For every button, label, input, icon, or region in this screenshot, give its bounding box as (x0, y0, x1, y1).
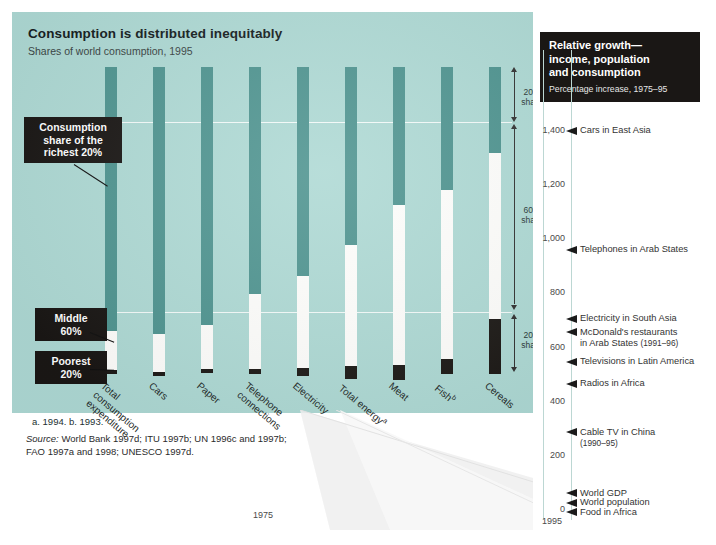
axis-year-end: 1995 (542, 516, 562, 526)
bar-segment-middle-3 (201, 325, 213, 370)
axis-line-right (571, 50, 572, 520)
bar-segment-poorest-8 (441, 359, 453, 374)
marker-arrow-7 (566, 428, 577, 436)
bar-2 (153, 67, 165, 374)
source-note: Source: World Bank 1997d; ITU 1997b; UN … (26, 433, 287, 458)
bar-segment-poorest-5 (297, 368, 309, 376)
bar-4 (249, 67, 261, 374)
footnotes: a. 1994. b. 1993. (32, 416, 103, 427)
bar-segment-middle-2 (153, 334, 165, 372)
growth-header: Relative growth— income, population and … (540, 32, 700, 102)
bar-label-9: Cereals (483, 380, 517, 411)
growth-title-line1: Relative growth— (549, 39, 642, 51)
marker-arrow-2 (566, 246, 577, 254)
marker-arrow-6 (566, 380, 577, 388)
axis-tick-1200: 1,200 (533, 179, 565, 189)
arrow-down-mid (511, 305, 517, 310)
bar-segment-richest-8 (441, 67, 453, 190)
source-label: Source: (26, 433, 59, 444)
axis-year-start: 1975 (253, 510, 273, 520)
source-line-1: World Bank 1997d; ITU 1997b; UN 1996c an… (59, 433, 287, 444)
bar-segment-richest-1 (105, 67, 117, 331)
marker-label-6: Radios in Africa (580, 378, 645, 389)
bar-segment-middle-8 (441, 190, 453, 359)
callout-richest-line2: share of the (43, 134, 103, 146)
marker-label-10: Food in Africa (580, 507, 637, 518)
callout-middle-share: Middle 60% (35, 308, 107, 341)
callout-richest-line1: Consumption (39, 121, 107, 133)
bar-segment-middle-9 (489, 153, 501, 319)
axis-tick-400: 400 (533, 396, 565, 406)
bar-segment-richest-3 (201, 67, 213, 325)
bar-3 (201, 67, 213, 374)
bar-segment-richest-7 (393, 67, 405, 205)
callout-poorest-line2: 20% (60, 368, 81, 380)
marker-arrow-1 (566, 127, 577, 135)
bar-8 (441, 67, 453, 374)
marker-label-4: McDonald's restaurantsin Arab States (19… (580, 327, 678, 349)
bar-segment-poorest-4 (249, 369, 261, 374)
marker-label-2: Telephones in Arab States (580, 244, 688, 255)
bar-segment-poorest-6 (345, 366, 357, 378)
growth-title-line3: and consumption (549, 66, 641, 78)
bar-segment-richest-2 (153, 67, 165, 334)
arrow-down-top (511, 117, 517, 122)
bar-segment-poorest-2 (153, 372, 165, 375)
bar-label-3: Paper (195, 380, 223, 406)
callout-richest-share: Consumption share of the richest 20% (24, 117, 122, 163)
bar-segment-richest-5 (297, 67, 309, 276)
bar-label-4: Telephoneconnections (235, 380, 291, 432)
bar-label-7: Meat (387, 380, 411, 403)
bar-segment-richest-9 (489, 67, 501, 153)
axis-tick-600: 600 (533, 342, 565, 352)
marker-label-1: Cars in East Asia (580, 125, 651, 136)
source-line-2: FAO 1997a and 1998; UNESCO 1997d. (26, 446, 194, 457)
marker-arrow-5 (566, 358, 577, 366)
axis-tick-0: 0 (533, 504, 565, 514)
share-line-top (514, 71, 515, 118)
marker-arrow-4 (566, 328, 577, 336)
marker-label-3: Electricity in South Asia (580, 313, 677, 324)
bar-segment-poorest-9 (489, 319, 501, 374)
bar-segment-middle-6 (345, 245, 357, 366)
bar-6 (345, 67, 357, 374)
bar-9 (489, 67, 501, 374)
bar-5 (297, 67, 309, 374)
callout-poorest-line1: Poorest (51, 355, 90, 367)
relative-growth-panel: Relative growth— income, population and … (533, 0, 716, 545)
bar-segment-middle-5 (297, 276, 309, 368)
bar-segment-middle-4 (249, 294, 261, 369)
axis-tick-1000: 1,000 (533, 233, 565, 243)
perspective-rays (300, 410, 540, 530)
axis-tick-800: 800 (533, 287, 565, 297)
bar-segment-poorest-3 (201, 369, 213, 372)
bar-segment-richest-6 (345, 67, 357, 245)
callout-richest-line3: richest 20% (44, 146, 102, 158)
arrow-down-bot (511, 367, 517, 372)
callout-middle-line2: 60% (60, 325, 81, 337)
marker-label-5: Televisions in Latin America (580, 356, 694, 367)
share-line-bot (514, 318, 515, 370)
share-scale: 20% share 60% share 20% share (510, 67, 534, 377)
consumption-chart-panel: Consumption is distributed inequitably S… (12, 12, 533, 413)
marker-arrow-9 (566, 499, 577, 507)
callout-middle-line1: Middle (54, 312, 87, 324)
share-line-mid (514, 128, 515, 304)
bar-label-2: Cars (147, 380, 171, 402)
axis-tick-200: 200 (533, 450, 565, 460)
axis-tick-1400: 1,400 (533, 125, 565, 135)
marker-label-7: Cable TV in China(1990–95) (580, 427, 655, 449)
marker-arrow-8 (566, 489, 577, 497)
bar-segment-poorest-7 (393, 365, 405, 380)
marker-arrow-10 (566, 508, 577, 516)
growth-title-line2: income, population (549, 53, 650, 65)
callout-poorest-share: Poorest 20% (35, 351, 107, 384)
bar-segment-richest-4 (249, 67, 261, 294)
bar-7 (393, 67, 405, 374)
bar-label-8: Fishb (432, 380, 459, 406)
bar-segment-middle-7 (393, 205, 405, 365)
marker-arrow-3 (566, 315, 577, 323)
